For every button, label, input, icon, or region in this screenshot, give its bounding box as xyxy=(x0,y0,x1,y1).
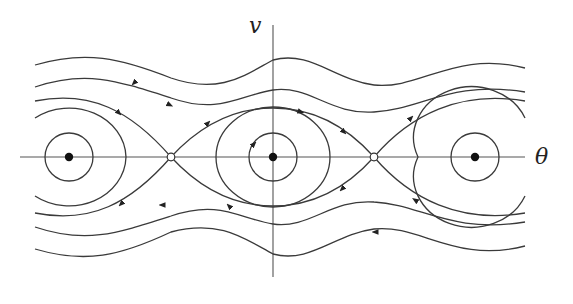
phase-portrait xyxy=(0,0,573,304)
center-point xyxy=(269,153,277,161)
saddle-point xyxy=(370,153,378,161)
center-point xyxy=(65,153,73,161)
y-axis-label: v xyxy=(249,15,261,37)
center-point xyxy=(471,153,479,161)
x-axis-label: θ xyxy=(535,146,548,168)
axes xyxy=(20,25,525,277)
saddle-point xyxy=(167,153,175,161)
